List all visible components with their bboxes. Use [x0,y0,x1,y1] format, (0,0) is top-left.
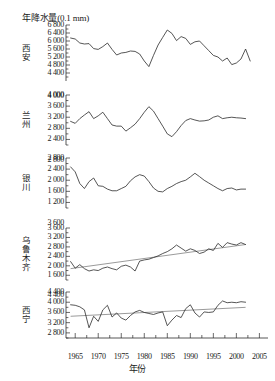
y-tick-label: 3 200 [47,233,64,241]
y-tick-label: 6 000 [47,37,64,45]
y-tick-label: 3 200 [47,319,64,327]
panel-兰州: 兰州2 4002 8003 2003 6004 0002 800 [0,0,275,381]
x-tick-label: 1970 [91,352,106,361]
panel-label-西安: 西安 [20,44,32,62]
y-tick-label: 1 600 [47,271,64,279]
precipitation-multi-panel-chart: 年降水量(0.1 mm) 西安4 4004 8005 2005 6006 000… [0,0,275,381]
y-tick-label: 5 200 [47,53,64,61]
plot-area-西安 [0,0,275,381]
panel-label-兰州: 兰州 [20,111,32,129]
y-tick-label: 3 200 [47,113,64,121]
y-tick-label: 2 800 [47,243,64,251]
x-tick-label: 1990 [183,352,198,361]
panel-label-西宁: 西宁 [20,306,32,324]
data-series-乌鲁木齐 [71,243,246,271]
y-tick-label: 5 600 [47,45,64,53]
y-tick-labels-银川: 1 2001 6002 0002 4002 8003 600 [28,0,64,381]
y-tick-labels-西安: 4 4004 8005 2005 6006 0006 4006 8004 000 [28,0,64,381]
data-series-兰州 [71,107,246,137]
panel-西安: 西安4 4004 8005 2005 6006 0006 4006 8004 0… [0,0,275,381]
y-tick-label: 4 000 [47,298,64,306]
x-axis-tick-labels: 196519701975198019851990199520002005 [0,352,275,364]
x-tick-label: 1975 [114,352,129,361]
y-tick-label: 2 800 [47,124,64,132]
y-tick-label: 4 400 [47,288,64,296]
y-tick-label: 1 600 [47,187,64,195]
x-tick-label: 1985 [160,352,175,361]
trend-line-乌鲁木齐 [71,245,246,269]
plot-area-西宁 [0,0,275,381]
panel-乌鲁木齐: 乌鲁木齐1 6002 0002 4002 8003 2003 6004 400 [0,0,275,381]
y-tick-label: 3 600 [47,308,64,316]
data-series-西安 [71,30,251,67]
y-tick-label: 2 400 [47,165,64,173]
plot-area-兰州 [0,0,275,381]
y-tick-label: 2 000 [47,176,64,184]
y-tick-labels-西宁: 2 8003 2003 6004 0004 400 [28,0,64,381]
panel-银川: 银川1 2001 6002 0002 4002 8003 600 [0,0,275,381]
y-tick-labels-兰州: 2 4002 8003 2003 6004 0002 800 [28,0,64,381]
x-tick-label: 1965 [68,352,83,361]
plot-area-乌鲁木齐 [0,0,275,381]
trend-line-西宁 [71,307,246,316]
panel-label-乌鲁木齐: 乌鲁木齐 [20,236,32,272]
panel-西宁: 西宁2 8003 2003 6004 0004 400 [0,0,275,381]
y-tick-label: 1 200 [47,198,64,206]
y-tick-label: 6 400 [47,29,64,37]
data-series-西宁 [71,301,246,328]
y-tick-label: 2 400 [47,252,64,260]
y-tick-label-overflow: 2 800 [47,156,64,164]
y-tick-label: 2 000 [47,262,64,270]
y-tick-label: 3 600 [47,102,64,110]
panel-label-银川: 银川 [20,174,32,192]
y-tick-label-overflow: 3 600 [47,219,64,227]
y-tick-label: 4 400 [47,69,64,77]
y-tick-labels-乌鲁木齐: 1 6002 0002 4002 8003 2003 6004 400 [28,0,64,381]
y-tick-label: 2 800 [47,329,64,337]
plot-area-银川 [0,0,275,381]
y-axis-title: 年降水量(0.1 mm) [22,13,89,24]
x-tick-label: 2005 [252,352,267,361]
x-tick-label: 2000 [229,352,244,361]
data-series-银川 [71,167,246,192]
x-tick-label: 1995 [206,352,221,361]
y-tick-label-overflow: 4 400 [47,291,64,299]
y-tick-label-overflow: 4 000 [47,92,64,100]
y-tick-label: 2 800 [47,154,64,162]
x-axis-title: 年份 [0,364,275,374]
y-tick-label: 2 400 [47,135,64,143]
x-tick-label: 1980 [137,352,152,361]
y-tick-label: 4 800 [47,61,64,69]
y-tick-label: 4 000 [47,91,64,99]
y-tick-label: 3 600 [47,224,64,232]
